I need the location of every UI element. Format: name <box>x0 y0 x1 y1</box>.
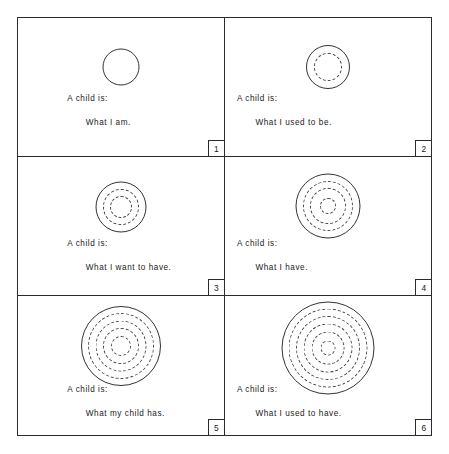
panel-lead-text: A child is: <box>237 239 278 248</box>
figure-container: A child is: What I am. 1 A child is: Wha… <box>0 0 449 454</box>
panel-number-badge: 4 <box>415 279 432 296</box>
panel-number-badge: 6 <box>415 419 432 436</box>
panel-number-badge: 1 <box>208 140 225 157</box>
panel-answer-text: What I am. <box>86 118 131 127</box>
panel-3: A child is: What I want to have. 3 <box>18 157 225 296</box>
panel-answer-text: What I used to be. <box>255 118 331 127</box>
panel-answer-text: What I used to have. <box>255 409 341 418</box>
panel-lead-text: A child is: <box>67 94 108 103</box>
panel-lead-text: A child is: <box>237 94 278 103</box>
panel-lead-text: A child is: <box>237 385 278 394</box>
panel-answer-text: What I have. <box>255 263 308 272</box>
panel-1: A child is: What I am. 1 <box>18 18 225 157</box>
panel-2: A child is: What I used to be. 2 <box>225 18 432 157</box>
panel-answer-text: What I want to have. <box>86 263 172 272</box>
panel-4: A child is: What I have. 4 <box>225 157 432 296</box>
panel-6: A child is: What I used to have. 6 <box>225 296 432 435</box>
ring-solid-outer <box>102 49 139 86</box>
ring-dashed-5 <box>320 341 335 356</box>
ring-dashed-2 <box>110 196 132 218</box>
panel-lead-text: A child is: <box>67 239 108 248</box>
panel-answer-text: What my child has. <box>86 409 165 418</box>
panel-number-badge: 2 <box>415 140 432 157</box>
panel-number-badge: 5 <box>208 419 225 436</box>
ring-dashed-3 <box>320 198 336 214</box>
ring-dashed-4 <box>111 336 131 356</box>
ring-dashed-1 <box>314 53 342 81</box>
panel-lead-text: A child is: <box>67 385 108 394</box>
panel-5: A child is: What my child has. 5 <box>18 296 225 435</box>
panel-grid: A child is: What I am. 1 A child is: Wha… <box>17 17 432 436</box>
panel-number-badge: 3 <box>208 279 225 296</box>
